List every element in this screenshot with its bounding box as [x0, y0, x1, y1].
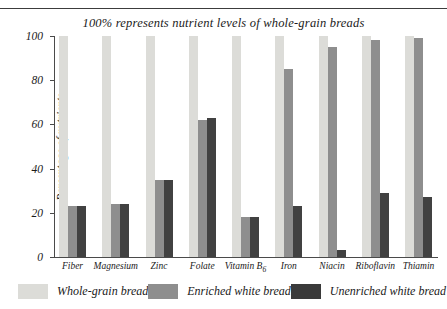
bar-group-zinc: Zinc [146, 36, 173, 257]
bar-iron-series-0 [275, 36, 284, 257]
legend-item-1: Enriched white bread [148, 284, 291, 299]
bar-group-fiber: Fiber [59, 36, 86, 257]
bar-group-magnesium: Magnesium [102, 36, 129, 257]
y-tick-label-100: 100 [26, 30, 43, 42]
bar-group-folate: Folate [189, 36, 216, 257]
x-axis-label-iron: Iron [281, 261, 297, 271]
legend-item-0: Whole-grain bread [18, 284, 148, 299]
x-axis-label-zinc: Zinc [151, 261, 168, 271]
x-axis-label-niacin: Niacin [319, 261, 344, 271]
legend-label-0: Whole-grain bread [57, 284, 148, 299]
bar-group-vitamin-b6: Vitamin B6 [232, 36, 259, 257]
x-axis-label-folate: Folate [190, 261, 215, 271]
x-axis-label-thiamin: Thiamin [403, 261, 435, 271]
y-tick-label-0: 0 [37, 251, 43, 263]
bar-vitamin-b6-series-1 [241, 217, 250, 257]
x-axis-label-fiber: Fiber [62, 261, 83, 271]
chart-title: 100% represents nutrient levels of whole… [0, 16, 447, 31]
y-tick-label-60: 60 [32, 118, 44, 130]
bar-thiamin-series-1 [414, 38, 423, 257]
x-axis-label-vitamin-b6: Vitamin B6 [225, 261, 266, 274]
bar-zinc-series-1 [155, 180, 164, 257]
bar-magnesium-series-0 [102, 36, 111, 257]
bar-group-riboflavin: Riboflavin [362, 36, 389, 257]
bar-thiamin-series-2 [423, 197, 432, 257]
chart-legend: Whole-grain breadEnriched white breadUne… [18, 281, 429, 301]
x-axis-label-magnesium: Magnesium [94, 261, 138, 271]
bar-riboflavin-series-1 [371, 40, 380, 257]
legend-label-2: Unenriched white bread [330, 284, 446, 299]
legend-swatch-2 [291, 284, 321, 299]
bar-group-thiamin: Thiamin [405, 36, 432, 257]
legend-swatch-0 [18, 284, 48, 299]
x-axis-line [54, 257, 438, 258]
bar-fiber-series-1 [68, 206, 77, 257]
bar-vitamin-b6-series-2 [250, 217, 259, 257]
bar-niacin-series-1 [328, 47, 337, 257]
bar-magnesium-series-1 [111, 204, 120, 257]
bar-magnesium-series-2 [120, 204, 129, 257]
y-tick-label-40: 40 [32, 163, 44, 175]
legend-swatch-1 [148, 284, 178, 299]
bar-riboflavin-series-0 [362, 36, 371, 257]
bar-folate-series-0 [189, 36, 198, 257]
y-tick-label-80: 80 [32, 74, 44, 86]
bar-folate-series-2 [207, 118, 216, 257]
bar-group-iron: Iron [275, 36, 302, 257]
bar-fiber-series-0 [59, 36, 68, 257]
bar-niacin-series-0 [319, 36, 328, 257]
y-tick-label-20: 20 [32, 207, 44, 219]
bar-fiber-series-2 [77, 206, 86, 257]
y-tick-0: 0 [50, 257, 55, 258]
x-axis-label-riboflavin: Riboflavin [355, 261, 395, 271]
plot-area: 020406080100 Percentage of nutrients Fib… [55, 36, 438, 257]
bar-folate-series-1 [198, 120, 207, 257]
top-divider [0, 8, 447, 9]
bar-thiamin-series-0 [405, 36, 414, 257]
bar-zinc-series-2 [164, 180, 173, 257]
bar-iron-series-1 [284, 69, 293, 257]
bar-zinc-series-0 [146, 36, 155, 257]
bar-groups: FiberMagnesiumZincFolateVitamin B6IronNi… [55, 36, 438, 257]
legend-label-1: Enriched white bread [187, 284, 291, 299]
bar-riboflavin-series-2 [380, 193, 389, 257]
bar-iron-series-2 [293, 206, 302, 257]
nutrient-comparison-figure: 100% represents nutrient levels of whole… [0, 0, 447, 309]
legend-item-2: Unenriched white bread [291, 284, 446, 299]
bar-niacin-series-2 [337, 250, 346, 257]
bar-vitamin-b6-series-0 [232, 36, 241, 257]
bar-group-niacin: Niacin [319, 36, 346, 257]
